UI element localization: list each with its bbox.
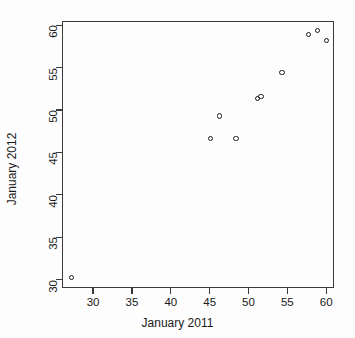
y-tick-label: 35 <box>47 237 59 250</box>
y-tick-label: 40 <box>47 195 59 208</box>
x-tick-label: 30 <box>87 296 100 308</box>
x-tick-label: 45 <box>203 296 216 308</box>
data-point <box>217 113 222 118</box>
y-tick-label: 50 <box>47 110 59 123</box>
data-point <box>324 38 329 43</box>
y-axis-title: January 2012 <box>4 0 20 338</box>
y-axis-title-text: January 2012 <box>5 133 19 206</box>
x-tick-label: 50 <box>242 296 255 308</box>
x-axis-title: January 2011 <box>0 316 355 330</box>
x-tick <box>287 288 288 294</box>
x-tick <box>170 288 171 294</box>
scatter-plot-figure: January 2011 January 2012 30354045505560… <box>0 0 355 338</box>
x-tick <box>326 288 327 294</box>
x-tick-label: 55 <box>281 296 294 308</box>
x-tick-label: 40 <box>164 296 177 308</box>
data-point <box>258 94 263 99</box>
x-tick <box>92 288 93 294</box>
x-tick-label: 35 <box>126 296 139 308</box>
x-tick <box>209 288 210 294</box>
data-point <box>233 136 238 141</box>
x-tick <box>248 288 249 294</box>
y-tick-label: 55 <box>47 68 59 81</box>
plot-data-area <box>62 21 334 288</box>
data-point <box>279 70 284 75</box>
y-tick-label: 30 <box>47 280 59 293</box>
data-point <box>69 275 74 280</box>
data-point <box>315 28 320 33</box>
x-tick-label: 60 <box>320 296 333 308</box>
data-point <box>208 136 213 141</box>
y-tick-label: 45 <box>47 152 59 165</box>
x-tick <box>131 288 132 294</box>
y-tick-label: 60 <box>47 25 59 38</box>
data-point <box>306 32 311 37</box>
